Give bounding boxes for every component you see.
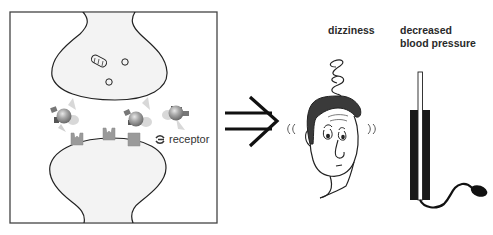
receptor-label: receptor: [169, 133, 209, 145]
vesicle-icon: [122, 59, 128, 65]
blood-pressure-label-line-2: blood pressure: [400, 37, 476, 50]
receptor-icon-bound: [128, 133, 140, 146]
dizzy-face-icon: [288, 60, 376, 198]
double-arrow-right-icon: [225, 97, 277, 146]
pump-bulb: [469, 183, 489, 199]
dizziness-label: dizziness: [328, 24, 375, 37]
blood-pressure-label-line-1: decreased: [400, 24, 476, 37]
diagram-canvas: receptor dizziness decreased blood press…: [0, 0, 493, 235]
mercury-tube: [418, 72, 423, 200]
blood-pressure-label: decreased blood pressure: [400, 24, 476, 50]
synapse-panel: [10, 12, 217, 223]
wobble-marks-right: [368, 124, 375, 134]
sphygmomanometer-icon: [410, 72, 489, 207]
vesicle-icon: [106, 79, 112, 85]
dizzy-swirl-icon: [330, 60, 343, 101]
wobble-marks-left: [288, 124, 295, 134]
